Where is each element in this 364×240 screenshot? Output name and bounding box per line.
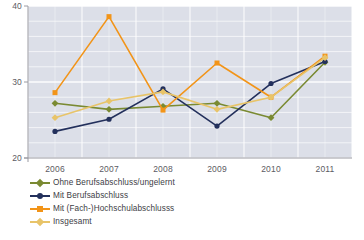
x-axis-tick-label: 2010 <box>251 164 291 174</box>
data-point <box>214 123 219 128</box>
x-axis-tick-label: 2009 <box>197 164 237 174</box>
x-axis-tick-label: 2011 <box>305 164 345 174</box>
x-axis-tick-label: 2008 <box>143 164 183 174</box>
chart-legend: Ohne Berufsabschluss/ungelerntMit Berufs… <box>30 176 280 228</box>
legend-marker-circle-icon <box>30 190 50 201</box>
legend-item: Ohne Berufsabschluss/ungelernt <box>30 176 280 189</box>
data-point <box>215 61 220 66</box>
data-point <box>52 129 57 134</box>
legend-label: Mit (Fach-)Hochschulabschlusss <box>53 204 174 213</box>
legend-label: Insgesamt <box>53 217 92 226</box>
legend-label: Ohne Berufsabschluss/ungelernt <box>53 178 175 187</box>
y-axis-tick-label: 30 <box>2 77 22 87</box>
legend-marker-diamond-icon <box>30 216 50 227</box>
legend-item: Mit Berufsabschluss <box>30 189 280 202</box>
y-axis-tick-label: 20 <box>2 153 22 163</box>
data-point <box>106 117 111 122</box>
legend-marker-diamond-icon <box>30 177 50 188</box>
data-point <box>268 81 273 86</box>
legend-marker-square-icon <box>30 203 50 214</box>
legend-item: Mit (Fach-)Hochschulabschlusss <box>30 202 280 215</box>
legend-item: Insgesamt <box>30 215 280 228</box>
legend-label: Mit Berufsabschluss <box>53 191 128 200</box>
data-point <box>107 14 112 19</box>
x-axis-tick-label: 2006 <box>35 164 75 174</box>
y-axis-tick-label: 40 <box>2 1 22 11</box>
x-axis-tick-label: 2007 <box>89 164 129 174</box>
data-point <box>53 90 58 95</box>
data-point <box>161 108 166 113</box>
